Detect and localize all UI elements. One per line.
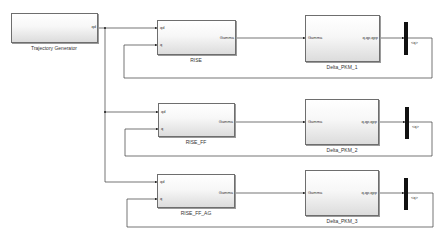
port-label-rise-ff-in-qd: qd — [161, 110, 165, 114]
block-label-delta-pkm-1: Delta_PKM_1 — [327, 64, 358, 70]
port-label-traj-qd: qd — [86, 25, 96, 29]
demux-1[interactable] — [404, 22, 408, 55]
port-label-delta1-out: q,qp,qpp — [350, 36, 378, 40]
port-label-delta2-in: Gamma — [308, 120, 322, 124]
port-label-rise-ff-ag-out: Gamma — [209, 191, 233, 195]
port-label-rise-in-qd: qd — [160, 26, 164, 30]
demux-2[interactable] — [405, 107, 409, 139]
port-label-delta3-in: Gamma — [308, 191, 322, 195]
port-label-rise-ff-out: Gamma — [209, 120, 233, 124]
diagram-canvas: qd Trajectory Generator qd q Gamma RISE … — [0, 0, 444, 238]
block-label-rise: RISE — [190, 57, 202, 63]
port-label-rise-ff-ag-in-q: q — [160, 197, 162, 201]
branch-point-2 — [104, 111, 106, 113]
branch-point-1 — [104, 27, 106, 29]
demux-3[interactable] — [404, 178, 408, 210]
block-label-trajectory-generator: Trajectory Generator — [31, 45, 77, 51]
port-label-delta3-out: q,qp,qpp — [349, 191, 377, 195]
block-label-rise-ff-ag: RISE_FF_AG — [181, 210, 212, 216]
port-label-delta2-out: q,qp,qpp — [349, 120, 377, 124]
trajectory-generator-block[interactable] — [11, 13, 98, 43]
port-label-rise-out: Gamma — [210, 36, 234, 40]
port-label-rise-ff-in-q: q — [161, 127, 163, 131]
port-label-rise-in-q: q — [160, 43, 162, 47]
demux-1-out-label: <q> — [411, 41, 418, 45]
block-label-rise-ff: RISE_FF — [186, 139, 207, 145]
block-label-delta-pkm-2: Delta_PKM_2 — [327, 147, 358, 153]
port-label-delta1-in: Gamma — [308, 36, 322, 40]
demux-3-out-label: <q> — [411, 196, 418, 200]
demux-2-out-label: <q> — [412, 125, 419, 129]
block-label-delta-pkm-3: Delta_PKM_3 — [327, 218, 358, 224]
port-label-rise-ff-ag-in-qd: qd — [160, 180, 164, 184]
